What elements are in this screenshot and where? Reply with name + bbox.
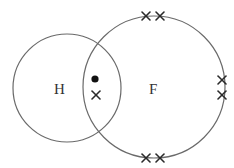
hf-dot-cross-diagram: H F: [0, 0, 234, 168]
hydrogen-shell: [13, 34, 121, 142]
hydrogen-label: H: [54, 81, 65, 97]
fluorine-shared-electron-cross: [92, 91, 100, 99]
hydrogen-electron-dot: [91, 75, 98, 82]
fluorine-label: F: [149, 81, 157, 97]
